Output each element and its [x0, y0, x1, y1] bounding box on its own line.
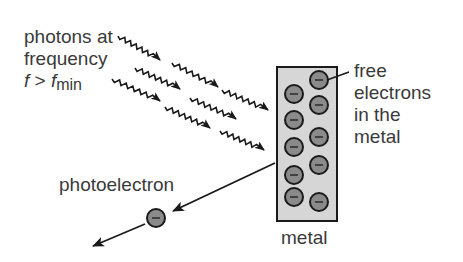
photon-arrow — [220, 131, 264, 150]
free-electrons-line4: metal — [354, 126, 431, 148]
free-electron — [285, 111, 303, 129]
fmin-subscript: min — [56, 76, 82, 93]
photons-label-line2: frequency — [24, 48, 113, 70]
photons-label: photons at frequency f > fmin — [24, 26, 113, 93]
free-electrons-label: free electrons in the metal — [354, 60, 431, 148]
photons-label-line1: photons at — [24, 26, 113, 48]
photon-arrow — [190, 98, 236, 119]
free-electron — [285, 138, 303, 156]
free-electron — [285, 166, 303, 184]
free-electrons-line3: in the — [354, 104, 431, 126]
photon-arrow — [165, 107, 210, 128]
greater-than: > — [29, 70, 51, 91]
photon-arrows — [112, 36, 268, 150]
free-electron — [310, 156, 328, 174]
photon-arrow — [222, 90, 268, 110]
free-electrons-line2: electrons — [354, 82, 431, 104]
free-electron — [310, 71, 328, 89]
photon-arrow — [135, 68, 180, 89]
frequency-condition: f > fmin — [24, 70, 113, 93]
photoelectron-motion-arrow — [93, 224, 145, 246]
photon-arrow — [112, 79, 160, 101]
ejection-arrow — [173, 163, 275, 211]
photon-arrow — [118, 36, 160, 60]
free-electron — [310, 128, 328, 146]
photoelectron-particle — [147, 209, 165, 227]
free-electron — [285, 188, 303, 206]
photoelectric-diagram: photons at frequency f > fmin free elect… — [0, 0, 463, 262]
photon-arrow — [172, 63, 218, 87]
free-electron — [310, 193, 328, 211]
free-electron — [285, 85, 303, 103]
free-electrons-line1: free — [354, 60, 431, 82]
free-electron — [310, 96, 328, 114]
metal-label: metal — [281, 227, 327, 249]
photoelectron-label: photoelectron — [59, 174, 174, 196]
